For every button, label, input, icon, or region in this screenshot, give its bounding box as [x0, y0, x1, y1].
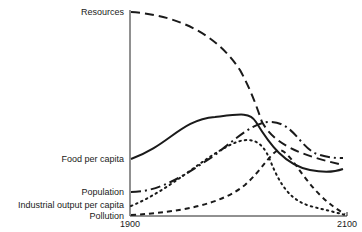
- label-population: Population: [81, 187, 124, 197]
- label-industrial-output: Industrial output per capita: [18, 200, 124, 210]
- x-tick-1900: 1900: [120, 219, 140, 229]
- series-industrial-output: [131, 140, 345, 215]
- chart-plot: [0, 0, 362, 232]
- label-food-per-capita: Food per capita: [61, 154, 124, 164]
- series-pollution: [131, 150, 345, 215]
- label-resources: Resources: [81, 7, 124, 17]
- label-pollution: Pollution: [89, 211, 124, 221]
- series-food-per-capita: [131, 115, 343, 172]
- x-tick-2100: 2100: [337, 219, 357, 229]
